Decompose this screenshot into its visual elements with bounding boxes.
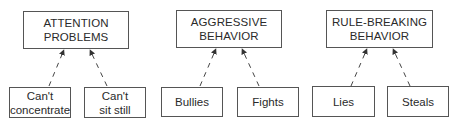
construct-label: AGGRESSIVE BEHAVIOR bbox=[191, 15, 267, 43]
indicator-label: Steals bbox=[402, 95, 434, 109]
construct-label: RULE-BREAKING BEHAVIOR bbox=[332, 15, 427, 43]
indicator-box-lies: Lies bbox=[312, 86, 375, 117]
indicator-box-cant-concentrate: Can't concentrate bbox=[9, 87, 71, 118]
indicator-label: Bullies bbox=[175, 95, 209, 109]
arrow-cant-concentrate-to-attention bbox=[49, 52, 63, 86]
indicator-box-cant-sit-still: Can't sit still bbox=[84, 87, 146, 118]
indicator-box-steals: Steals bbox=[387, 86, 449, 117]
construct-box-rule-breaking-behavior: RULE-BREAKING BEHAVIOR bbox=[326, 10, 433, 48]
arrow-fights-to-aggressive bbox=[243, 51, 259, 86]
indicator-label: Can't sit still bbox=[99, 89, 130, 117]
indicator-box-fights: Fights bbox=[237, 87, 299, 117]
arrow-bullies-to-aggressive bbox=[200, 51, 215, 86]
construct-box-attention-problems: ATTENTION PROBLEMS bbox=[23, 11, 129, 49]
construct-label: ATTENTION PROBLEMS bbox=[43, 16, 108, 44]
indicator-label: Fights bbox=[252, 95, 283, 109]
arrow-steals-to-rule-breaking bbox=[394, 51, 410, 86]
indicator-box-bullies: Bullies bbox=[161, 87, 223, 117]
construct-box-aggressive-behavior: AGGRESSIVE BEHAVIOR bbox=[176, 10, 282, 48]
indicator-label: Lies bbox=[333, 95, 354, 109]
arrow-cant-sit-still-to-attention bbox=[91, 52, 107, 86]
arrow-lies-to-rule-breaking bbox=[351, 51, 366, 86]
indicator-label: Can't concentrate bbox=[10, 89, 70, 117]
